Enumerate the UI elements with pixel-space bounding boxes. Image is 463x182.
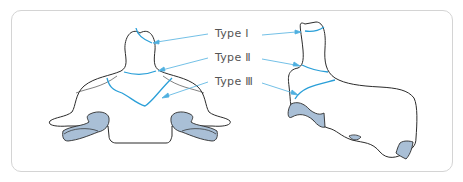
label-type-3: Type Ⅲ <box>215 75 253 88</box>
label-type-2: Type Ⅱ <box>215 51 251 64</box>
label-type-1: Type Ⅰ <box>215 27 249 40</box>
